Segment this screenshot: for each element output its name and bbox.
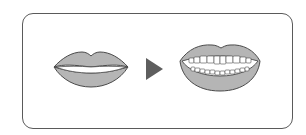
diagram-canvas xyxy=(0,0,306,135)
arrow-right-icon xyxy=(146,58,163,80)
closed-lips-icon xyxy=(54,52,128,87)
open-smile-icon xyxy=(180,45,260,91)
